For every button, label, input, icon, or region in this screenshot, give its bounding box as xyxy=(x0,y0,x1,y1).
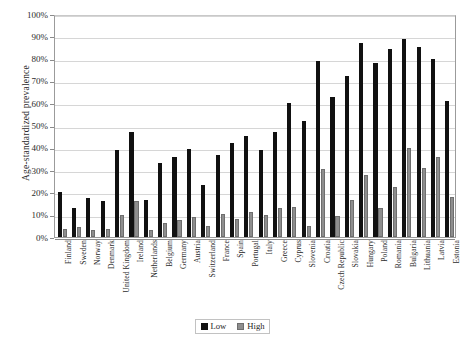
figure-caption xyxy=(6,345,456,355)
chart-legend: LowHigh xyxy=(0,319,465,334)
x-tick-label: Cyprus xyxy=(294,240,303,263)
legend-label: Low xyxy=(211,321,227,331)
x-tick-label: Sweden xyxy=(79,240,88,265)
bar-group xyxy=(400,16,414,237)
bar-low xyxy=(172,157,176,237)
x-tick-label: Croatia xyxy=(323,240,332,263)
legend-item-high: High xyxy=(237,321,264,331)
bar-high xyxy=(364,175,368,237)
bar-high xyxy=(235,219,239,237)
bar-low xyxy=(216,155,220,238)
y-tick-label: 10% xyxy=(8,211,48,220)
x-tick-label: Austria xyxy=(193,240,202,263)
bar-group xyxy=(342,16,356,237)
x-axis-tick-labels: FinlandSwedenNorwayDenmarkUnited Kingdom… xyxy=(54,240,456,312)
bar-high xyxy=(422,168,426,237)
bar-low xyxy=(86,198,90,237)
bar-high xyxy=(177,220,181,237)
x-tick-label: Italy xyxy=(265,240,274,254)
bar-group xyxy=(84,16,98,237)
bar-high xyxy=(264,215,268,237)
y-tick-label: 40% xyxy=(8,144,48,153)
bar-group xyxy=(328,16,342,237)
x-tick-label: Switzerland xyxy=(208,240,217,277)
bar-low xyxy=(230,143,234,237)
bar-high xyxy=(63,229,67,237)
bar-group xyxy=(428,16,442,237)
x-tick-label: Czech Republic xyxy=(337,240,346,290)
bar-high xyxy=(278,208,282,237)
legend-swatch-high xyxy=(237,323,244,330)
x-tick-label: Lithuania xyxy=(423,240,432,270)
y-tick-label: 0% xyxy=(8,234,48,243)
bar-low xyxy=(431,59,435,237)
bar-low xyxy=(72,208,76,237)
bar-low xyxy=(316,61,320,237)
bar-high xyxy=(307,226,311,237)
bar-group xyxy=(270,16,284,237)
x-tick-label: Spain xyxy=(236,240,245,258)
bar-low xyxy=(129,132,133,237)
x-tick-label: Norway xyxy=(93,240,102,265)
bar-high xyxy=(134,201,138,237)
bar-high xyxy=(192,217,196,237)
bar-low xyxy=(345,76,349,237)
bar-low xyxy=(302,121,306,237)
bar-low xyxy=(244,136,248,237)
y-tick-label: 80% xyxy=(8,55,48,64)
bar-low xyxy=(373,63,377,237)
bar-low xyxy=(201,185,205,237)
bar-group xyxy=(112,16,126,237)
bar-group xyxy=(357,16,371,237)
bar-low xyxy=(417,47,421,237)
x-tick-label: Netherlands xyxy=(150,240,159,278)
y-tick-label: 60% xyxy=(8,100,48,109)
bar-high xyxy=(91,230,95,237)
bar-low xyxy=(287,103,291,237)
bar-low xyxy=(58,192,62,237)
bar-group xyxy=(156,16,170,237)
y-tick-mark xyxy=(50,238,54,239)
x-tick-label: Greece xyxy=(280,240,289,262)
chart-figure: Age-standardized prevalence 100%90%80%70… xyxy=(0,0,465,355)
bar-high xyxy=(206,226,210,237)
x-tick-label: Denmark xyxy=(107,240,116,269)
y-tick-label: 90% xyxy=(8,33,48,42)
x-tick-label: Ireland xyxy=(136,240,145,262)
bar-low xyxy=(101,201,105,237)
bar-high xyxy=(106,229,110,237)
bar-group xyxy=(69,16,83,237)
bar-low xyxy=(259,150,263,237)
x-tick-label: Estonia xyxy=(452,240,461,263)
bar-low xyxy=(402,39,406,237)
bar-high xyxy=(436,157,440,237)
bar-high xyxy=(149,230,153,237)
bar-group xyxy=(256,16,270,237)
bar-low xyxy=(158,163,162,237)
bar-group xyxy=(141,16,155,237)
bar-group xyxy=(443,16,457,237)
bar-high xyxy=(378,208,382,237)
bar-group xyxy=(184,16,198,237)
bar-group xyxy=(170,16,184,237)
y-tick-label: 50% xyxy=(8,122,48,131)
x-tick-label: Belgium xyxy=(165,240,174,267)
bar-low xyxy=(388,49,392,237)
bar-high xyxy=(450,197,454,237)
bar-group xyxy=(371,16,385,237)
bar-group xyxy=(227,16,241,237)
bar-group xyxy=(98,16,112,237)
bar-high xyxy=(249,212,253,237)
bar-low xyxy=(330,97,334,237)
bar-group xyxy=(385,16,399,237)
legend-item-low: Low xyxy=(201,321,227,331)
x-tick-label: Romania xyxy=(394,240,403,268)
bar-group xyxy=(127,16,141,237)
bar-low xyxy=(144,200,148,237)
bar-group xyxy=(199,16,213,237)
bar-high xyxy=(335,216,339,237)
bar-high xyxy=(350,200,354,237)
bar-group xyxy=(299,16,313,237)
bar-high xyxy=(407,148,411,237)
x-tick-label: Slovakia xyxy=(351,240,360,267)
